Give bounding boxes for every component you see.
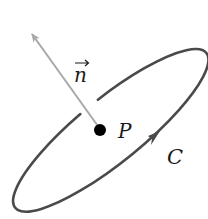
normal-vector-arrow bbox=[32, 34, 100, 129]
curve-c bbox=[0, 28, 208, 219]
diagram-canvas: n P C bbox=[0, 0, 208, 219]
curve-c-label: C bbox=[167, 145, 183, 169]
point-p-label: P bbox=[117, 119, 132, 143]
curve-c-main-arc bbox=[0, 28, 208, 219]
normal-vector-label: n bbox=[74, 63, 87, 87]
point-p bbox=[94, 124, 106, 136]
